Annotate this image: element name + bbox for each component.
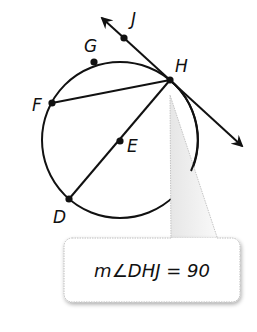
- geometry-diagram: J G H F E D m∠DHJ = 90: [0, 0, 257, 332]
- point-D: [65, 195, 72, 202]
- label-J: J: [128, 9, 136, 29]
- tangent-line-JH: [102, 18, 124, 38]
- point-F: [48, 99, 55, 106]
- tangent-line-JH-lower: [124, 38, 242, 146]
- label-G: G: [84, 36, 97, 56]
- point-E: [116, 137, 123, 144]
- label-E: E: [127, 136, 138, 156]
- label-D: D: [53, 207, 66, 227]
- point-G: [90, 58, 97, 65]
- point-H: [166, 76, 173, 83]
- callout-text-angle-measure: m∠DHJ = 90: [94, 260, 210, 281]
- point-J: [120, 34, 127, 41]
- label-H: H: [175, 56, 188, 76]
- label-F: F: [32, 95, 42, 115]
